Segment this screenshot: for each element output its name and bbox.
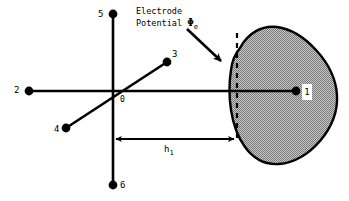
node-label-3: 3 — [172, 50, 177, 59]
dimension-label-subscript: 1 — [169, 149, 173, 157]
annotation-leader-arrow — [187, 29, 221, 61]
node-label-4: 4 — [54, 125, 59, 134]
annotation-line-2: Potential Φe — [136, 17, 198, 33]
node-dot-5 — [109, 10, 118, 19]
phi-symbol: Φ — [187, 16, 194, 29]
node-label-5: 5 — [98, 10, 103, 19]
node-label-2: 2 — [14, 86, 19, 95]
node-dot-6 — [109, 181, 118, 190]
node-label-1-container: 1 — [302, 84, 312, 100]
electrode-diagram: Electrode Potential Φe h1 5 6 2 3 4 0 1 — [0, 0, 349, 201]
axis-diagonal — [66, 62, 167, 128]
node-label-6: 6 — [120, 181, 125, 190]
node-label-0-origin: 0 — [120, 96, 125, 104]
phi-subscript: e — [194, 23, 198, 31]
shaded-region-blob — [230, 27, 338, 164]
node-dot-1 — [292, 87, 301, 96]
node-label-1: 1 — [304, 88, 309, 97]
node-dot-2 — [25, 87, 34, 96]
electrode-potential-annotation: Electrode Potential Φe — [136, 6, 198, 33]
node-dot-3 — [163, 58, 172, 67]
annotation-line-2-prefix: Potential — [136, 18, 187, 28]
dimension-label-h1: h1 — [164, 145, 174, 157]
node-dot-4 — [62, 124, 71, 133]
